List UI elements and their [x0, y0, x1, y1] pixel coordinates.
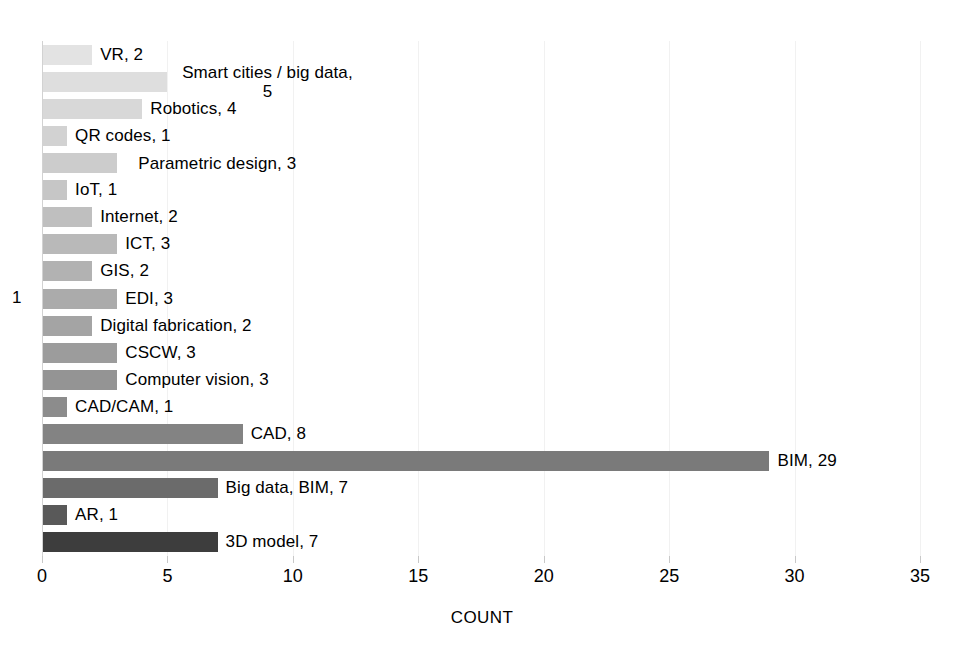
- bar-data-label: CAD/CAM, 1: [75, 397, 173, 417]
- bar-data-label: Big data, BIM, 7: [226, 478, 349, 498]
- bar[interactable]: [42, 99, 142, 119]
- bar[interactable]: [42, 397, 67, 417]
- bar-data-label: Parametric design, 3: [127, 153, 307, 172]
- bar-data-label: CSCW, 3: [125, 343, 196, 363]
- gridline: [920, 41, 921, 556]
- bar-row[interactable]: Parametric design, 3: [42, 153, 920, 173]
- x-axis-tick-label: 20: [514, 566, 574, 587]
- bar[interactable]: [42, 532, 218, 552]
- bar-row[interactable]: CAD, 8: [42, 424, 920, 444]
- bar-data-label: Digital fabrication, 2: [100, 316, 252, 336]
- bar-row[interactable]: Digital fabrication, 2: [42, 316, 920, 336]
- bar[interactable]: [42, 478, 218, 498]
- bar-data-label: GIS, 2: [100, 261, 149, 281]
- bar-row[interactable]: Computer vision, 3: [42, 370, 920, 390]
- bar-data-label: EDI, 3: [125, 289, 173, 309]
- y-axis-line: [42, 41, 43, 556]
- bar-row[interactable]: ICT, 3: [42, 234, 920, 254]
- bar-data-label: CAD, 8: [251, 424, 306, 444]
- x-axis-tick-label: 5: [137, 566, 197, 587]
- bar[interactable]: [42, 45, 92, 65]
- bar-row[interactable]: Robotics, 4: [42, 99, 920, 119]
- bar-row[interactable]: QR codes, 1: [42, 126, 920, 146]
- bar-data-label: Computer vision, 3: [125, 370, 269, 390]
- x-axis-tick: [544, 556, 545, 563]
- bar-data-label: Internet, 2: [100, 207, 178, 227]
- bar-row[interactable]: GIS, 2: [42, 261, 920, 281]
- bar[interactable]: [42, 72, 167, 92]
- bar-data-label: VR, 2: [100, 45, 143, 65]
- bar-row[interactable]: CSCW, 3: [42, 343, 920, 363]
- bar-row[interactable]: BIM, 29: [42, 451, 920, 471]
- x-axis-tick-label: 0: [12, 566, 72, 587]
- bar[interactable]: [42, 451, 769, 471]
- bar-data-label: 3D model, 7: [226, 532, 319, 552]
- bar[interactable]: [42, 153, 117, 173]
- bar[interactable]: [42, 316, 92, 336]
- bar[interactable]: [42, 343, 117, 363]
- bar[interactable]: [42, 289, 117, 309]
- bar-data-label: QR codes, 1: [75, 126, 171, 146]
- x-axis-tick: [418, 556, 419, 563]
- x-axis-tick: [795, 556, 796, 563]
- x-axis-title: COUNT: [0, 608, 964, 628]
- x-axis-tick: [920, 556, 921, 563]
- bar-row[interactable]: 3D model, 7: [42, 532, 920, 552]
- bar-data-label: ICT, 3: [125, 234, 170, 254]
- x-axis-tick-label: 35: [890, 566, 950, 587]
- bar[interactable]: [42, 207, 92, 227]
- bar-data-label: Robotics, 4: [150, 99, 236, 119]
- x-axis-tickmarks: [42, 556, 920, 564]
- bar[interactable]: [42, 424, 243, 444]
- plot-area: VR, 2Smart cities / big data, 5Robotics,…: [42, 41, 920, 556]
- bar-row[interactable]: Internet, 2: [42, 207, 920, 227]
- x-axis-tick-label: 25: [639, 566, 699, 587]
- bar-row[interactable]: Smart cities / big data, 5: [42, 72, 920, 92]
- bar[interactable]: [42, 180, 67, 200]
- x-axis-tick-label: 15: [388, 566, 448, 587]
- x-axis-tick: [669, 556, 670, 563]
- bar-data-label: Smart cities / big data, 5: [177, 63, 357, 101]
- bar-data-label: BIM, 29: [777, 451, 836, 471]
- bar[interactable]: [42, 126, 67, 146]
- horizontal-bar-chart: VR, 2Smart cities / big data, 5Robotics,…: [0, 0, 964, 656]
- bar-data-label: AR, 1: [75, 505, 118, 525]
- bar[interactable]: [42, 234, 117, 254]
- y-axis-title: 1: [12, 288, 21, 308]
- bar-row[interactable]: IoT, 1: [42, 180, 920, 200]
- bar-data-label: IoT, 1: [75, 180, 117, 200]
- bar-row[interactable]: Big data, BIM, 7: [42, 478, 920, 498]
- bar-row[interactable]: CAD/CAM, 1: [42, 397, 920, 417]
- x-axis-tick-label: 10: [263, 566, 323, 587]
- bar-row[interactable]: EDI, 3: [42, 289, 920, 309]
- bar-row[interactable]: AR, 1: [42, 505, 920, 525]
- bar[interactable]: [42, 370, 117, 390]
- x-axis-tick: [42, 556, 43, 563]
- x-axis-tick: [293, 556, 294, 563]
- bar-row[interactable]: VR, 2: [42, 45, 920, 65]
- x-axis-tick-label: 30: [765, 566, 825, 587]
- bar[interactable]: [42, 505, 67, 525]
- x-axis-tick: [167, 556, 168, 563]
- bar[interactable]: [42, 261, 92, 281]
